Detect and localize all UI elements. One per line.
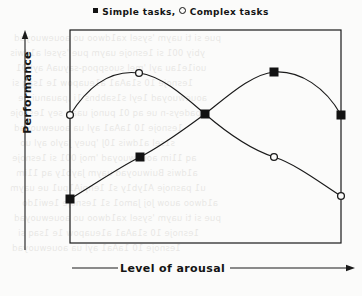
data-point-crossover: [201, 110, 210, 119]
data-point-simple-4: [337, 111, 346, 120]
data-point-complex-1: [136, 70, 143, 77]
data-point-complex-4: [338, 193, 345, 200]
data-point-complex-3: [271, 154, 278, 161]
series-markers-simple-tasks: [66, 68, 346, 204]
data-point-simple-3: [270, 68, 279, 77]
data-point-simple-0: [66, 195, 75, 204]
x-axis-arrow: [72, 265, 355, 271]
plot-frame: [70, 30, 341, 243]
chart-plot-area: [0, 0, 362, 296]
series-line-complex-tasks: [70, 72, 341, 196]
chart-figure: pue si ti uaym 'sysel xa1dwoo uo aouewuo…: [0, 0, 362, 296]
data-point-complex-0: [67, 112, 74, 119]
data-point-simple-1: [136, 153, 145, 162]
series-markers-complex-tasks: [67, 70, 345, 200]
y-axis-arrow: [22, 30, 28, 250]
series-line-simple-tasks: [70, 72, 341, 199]
